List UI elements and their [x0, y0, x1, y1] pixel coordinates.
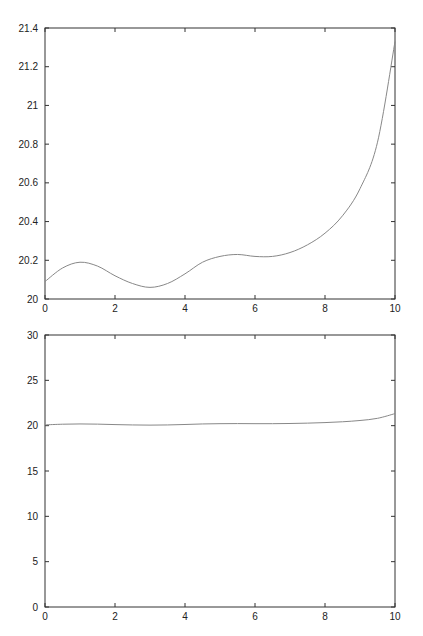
x-tick-label: 10	[389, 611, 401, 622]
x-tick-label: 6	[252, 303, 258, 314]
data-series-line	[45, 414, 395, 426]
x-tick-label: 8	[322, 303, 328, 314]
x-tick-label: 2	[112, 611, 118, 622]
x-tick-label: 4	[182, 611, 188, 622]
y-tick-label: 30	[27, 330, 39, 341]
y-tick-label: 20.2	[19, 255, 39, 266]
top-chart-panel: 02468102020.220.420.620.82121.221.4	[19, 23, 401, 315]
bottom-chart-panel: 0246810051015202530	[27, 330, 401, 623]
y-tick-label: 20	[27, 420, 39, 431]
y-tick-label: 21.2	[19, 61, 39, 72]
data-series-line	[45, 42, 395, 288]
y-tick-label: 15	[27, 466, 39, 477]
y-tick-label: 20.8	[19, 139, 39, 150]
x-tick-label: 2	[112, 303, 118, 314]
x-tick-label: 4	[182, 303, 188, 314]
x-tick-label: 0	[42, 303, 48, 314]
x-tick-label: 8	[322, 611, 328, 622]
y-tick-label: 10	[27, 511, 39, 522]
plot-frame	[45, 28, 395, 299]
plot-frame	[45, 335, 395, 607]
chart-canvas: 02468102020.220.420.620.82121.221.4 0246…	[0, 0, 423, 636]
y-tick-label: 25	[27, 375, 39, 386]
y-tick-label: 20	[27, 294, 39, 305]
y-tick-label: 20.4	[19, 216, 39, 227]
y-tick-label: 0	[32, 602, 38, 613]
y-tick-label: 21	[27, 100, 39, 111]
x-tick-label: 0	[42, 611, 48, 622]
x-tick-label: 6	[252, 611, 258, 622]
y-tick-label: 5	[32, 556, 38, 567]
y-tick-label: 21.4	[19, 23, 39, 34]
x-tick-label: 10	[389, 303, 401, 314]
y-tick-label: 20.6	[19, 177, 39, 188]
